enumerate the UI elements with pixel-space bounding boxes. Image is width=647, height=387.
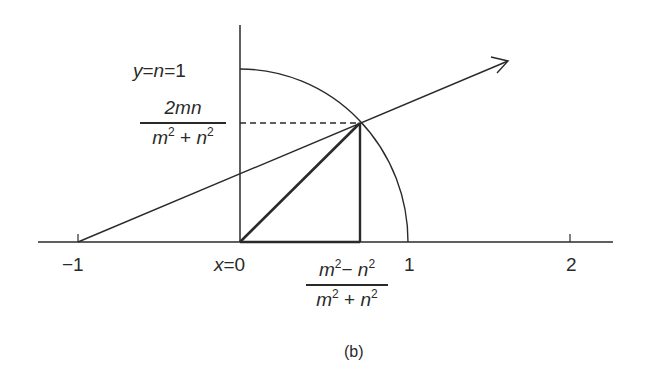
fraction-bar (306, 284, 388, 286)
fraction-denominator: m2 + n2 (140, 126, 226, 150)
fraction-numerator: 2mn (140, 96, 226, 120)
fraction-denominator: m2 + n2 (306, 288, 388, 312)
value-one: 1 (175, 60, 186, 81)
tick-label-2: 2 (566, 254, 577, 276)
label-point-y-fraction: 2mn m2 + n2 (140, 96, 226, 150)
diagram-canvas (0, 0, 647, 387)
fraction-bar (140, 122, 226, 124)
triangle-hypotenuse (240, 123, 360, 242)
eq: = (143, 60, 154, 81)
secant-line (78, 61, 508, 242)
label-point-x-fraction: m2− n2 m2 + n2 (306, 258, 388, 312)
label-y-top: y=n=1 (133, 60, 186, 82)
tick-label-1: 1 (404, 254, 415, 276)
tick-label-x-zero: x=0 (214, 254, 245, 276)
var-y: y (133, 60, 143, 81)
var-n: n (154, 60, 165, 81)
fraction-numerator: m2− n2 (306, 258, 388, 282)
tick-label-neg1: −1 (62, 254, 84, 276)
eq: = (164, 60, 175, 81)
figure-caption: (b) (344, 343, 364, 361)
